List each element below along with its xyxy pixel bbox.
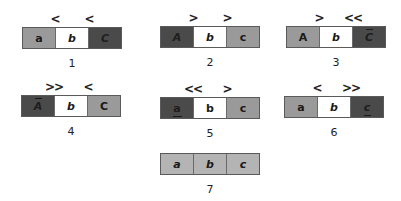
cell-strip: a b C <box>22 27 122 49</box>
diagram-caption: 2 <box>160 56 260 69</box>
cell-2: b <box>55 28 88 48</box>
boundary-marker-left: << <box>184 83 202 95</box>
cell-letter: A <box>173 32 182 43</box>
cell-1: A <box>287 27 319 47</box>
cell-3: C <box>352 27 385 47</box>
cell-2: b <box>319 27 352 47</box>
cell-1: A <box>161 27 193 47</box>
cell-strip: A b C <box>21 95 121 117</box>
diagram-caption: 6 <box>284 126 384 139</box>
cell-letter: A <box>299 32 308 43</box>
cell-2: b <box>193 154 226 174</box>
boundary-marker-right: << <box>344 12 362 24</box>
cell-letter: a <box>297 102 304 113</box>
cell-strip: a b c <box>160 153 260 175</box>
diagram-caption: 7 <box>160 183 260 196</box>
cell-letter-underlined: a <box>173 103 180 114</box>
cell-letter: c <box>240 32 247 43</box>
boundary-marker-right: < <box>84 13 93 25</box>
cell-3: c <box>226 98 259 118</box>
cell-letter: a <box>173 159 180 170</box>
cell-strip: a b c <box>284 96 384 118</box>
boundary-marker-right: > <box>222 83 231 95</box>
cell-1: a <box>23 28 55 48</box>
boundary-marker-left: > <box>314 12 323 24</box>
diagram-caption: 3 <box>286 56 386 69</box>
boundary-marker-right: > <box>222 12 231 24</box>
cell-3: C <box>87 96 120 116</box>
cell-letter: b <box>206 159 214 170</box>
boundary-marker-left: < <box>50 13 59 25</box>
cell-1: a <box>161 98 193 118</box>
cell-2: b <box>54 96 87 116</box>
cell-3: c <box>350 97 383 117</box>
cell-letter-overlined: C <box>365 32 373 43</box>
cell-letter: c <box>240 103 247 114</box>
boundary-marker-left: >> <box>45 81 63 93</box>
cell-2: b <box>193 98 226 118</box>
cell-letter: C <box>100 101 108 112</box>
cell-letter: C <box>101 33 109 44</box>
diagram-caption: 4 <box>21 125 121 138</box>
cell-3: c <box>226 27 259 47</box>
cell-2: b <box>317 97 350 117</box>
cell-letter: b <box>67 101 75 112</box>
cell-1: a <box>285 97 317 117</box>
cell-2: b <box>193 27 226 47</box>
cell-1: a <box>161 154 193 174</box>
cell-letter: b <box>332 32 340 43</box>
cell-letter: b <box>330 102 338 113</box>
boundary-marker-left: > <box>188 12 197 24</box>
cell-1: A <box>22 96 54 116</box>
cell-letter-overlined: A <box>34 101 43 112</box>
boundary-marker-right: >> <box>342 82 360 94</box>
cell-strip: a b c <box>160 97 260 119</box>
cell-letter: a <box>35 33 42 44</box>
cell-letter: b <box>206 103 214 114</box>
cell-3: c <box>226 154 259 174</box>
boundary-marker-left: < <box>312 82 321 94</box>
cell-strip: A b C <box>286 26 386 48</box>
diagram-caption: 5 <box>160 127 260 140</box>
boundary-marker-right: < <box>83 81 92 93</box>
cell-letter: b <box>206 32 214 43</box>
cell-3: C <box>88 28 121 48</box>
cell-letter: c <box>240 159 247 170</box>
cell-letter-underlined: c <box>364 102 371 113</box>
cell-letter: b <box>68 33 76 44</box>
diagram-caption: 1 <box>22 57 122 70</box>
cell-strip: A b c <box>160 26 260 48</box>
